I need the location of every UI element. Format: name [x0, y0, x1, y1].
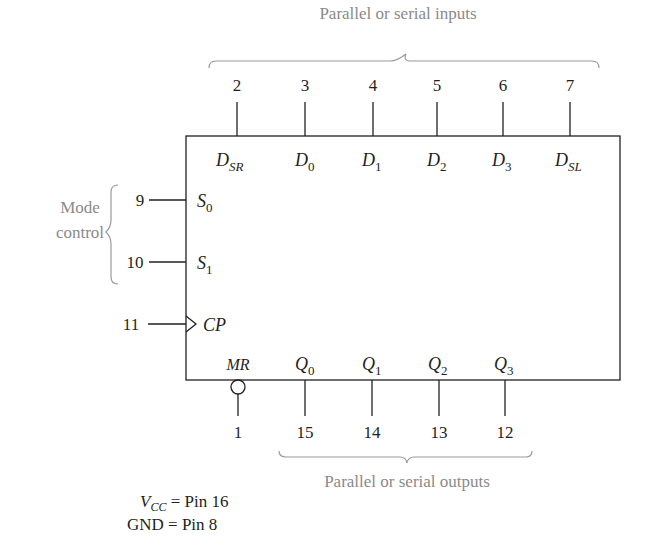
- inputs-brace-label: Parallel or serial inputs: [319, 4, 476, 23]
- top-pin-6: 6 D3: [491, 76, 512, 174]
- pin-number: 13: [431, 423, 448, 442]
- mode-control-label-line2: control: [56, 223, 104, 242]
- pin-label-d1: D1: [361, 150, 382, 174]
- pin-label-d0: D0: [294, 150, 315, 174]
- mode-control-label-line1: Mode: [60, 198, 100, 217]
- pin-number: 15: [297, 423, 314, 442]
- pin-label-cp: CP: [203, 315, 226, 335]
- pin-number: 4: [369, 76, 378, 95]
- top-pin-2: 2 DSR: [215, 76, 244, 174]
- left-pin-10: 10 S1: [127, 253, 213, 277]
- pin-label-q3: Q3: [494, 354, 514, 378]
- pin-label-s0: S0: [197, 191, 213, 215]
- pin-number: 10: [127, 253, 144, 272]
- bottom-pin-15: Q0 15: [295, 354, 315, 442]
- pin-label-d3: D3: [491, 150, 512, 174]
- inputs-brace: [209, 54, 599, 68]
- left-pin-11: 11 CP: [123, 315, 226, 335]
- pin-number: 12: [497, 423, 514, 442]
- pin-number: 7: [566, 76, 575, 95]
- pin-label-q2: Q2: [428, 354, 448, 378]
- pin-number: 2: [233, 76, 242, 95]
- pin-label-mr: MR: [225, 356, 249, 373]
- gnd-note: GND = Pin 8: [127, 515, 217, 534]
- top-pin-5: 5 D2: [426, 76, 447, 174]
- top-pin-3: 3 D0: [294, 76, 315, 174]
- pin-number: 9: [136, 191, 145, 210]
- pin-number: 1: [234, 423, 243, 442]
- pin-number: 3: [301, 76, 310, 95]
- bottom-pin-14: Q1 14: [362, 354, 382, 442]
- top-pin-7: 7 DSL: [554, 76, 582, 174]
- pin-number: 5: [433, 76, 442, 95]
- clock-triangle-icon: [186, 316, 196, 332]
- outputs-brace-label: Parallel or serial outputs: [324, 472, 490, 491]
- shift-register-diagram: Parallel or serial inputs 2 DSR 3 D0 4 D…: [0, 0, 650, 553]
- pin-number: 6: [499, 76, 508, 95]
- pin-label-d2: D2: [426, 150, 447, 174]
- bottom-pin-1: MR 1: [225, 356, 249, 442]
- mode-control-brace: [106, 185, 118, 284]
- pin-number: 11: [123, 315, 139, 334]
- pin-label-dsr: DSR: [215, 150, 244, 174]
- pin-label-q0: Q0: [295, 354, 315, 378]
- bottom-pin-13: Q2 13: [428, 354, 448, 442]
- pin-label-q1: Q1: [362, 354, 382, 378]
- pin-label-s1: S1: [197, 253, 213, 277]
- outputs-brace: [279, 451, 532, 463]
- vcc-note: VCC = Pin 16: [140, 492, 228, 514]
- left-pin-9: 9 S0: [136, 191, 213, 215]
- bottom-pin-12: Q3 12: [494, 354, 514, 442]
- chip-body: [186, 136, 620, 380]
- diagram-svg: Parallel or serial inputs 2 DSR 3 D0 4 D…: [0, 0, 650, 553]
- inversion-bubble-icon: [231, 380, 245, 394]
- pin-number: 14: [364, 423, 382, 442]
- pin-label-dsl: DSL: [554, 150, 582, 174]
- top-pin-4: 4 D1: [361, 76, 382, 174]
